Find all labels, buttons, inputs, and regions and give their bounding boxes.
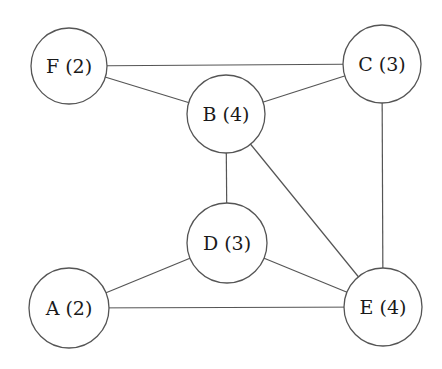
edge-a-e [69, 307, 383, 308]
node-label: F (2) [46, 55, 92, 77]
nodes-layer: F (2)C (3)B (4)D (3)A (2)E (4) [29, 25, 422, 348]
node-label: C (3) [358, 53, 406, 75]
node-b: B (4) [187, 75, 265, 153]
node-c: C (3) [343, 25, 421, 103]
graph-diagram: F (2)C (3)B (4)D (3)A (2)E (4) [0, 0, 442, 369]
node-e: E (4) [344, 268, 422, 346]
node-label: A (2) [45, 297, 93, 319]
node-d: D (3) [187, 203, 267, 283]
node-f: F (2) [31, 28, 107, 104]
node-label: E (4) [360, 296, 407, 318]
node-label: B (4) [203, 103, 250, 125]
node-label: D (3) [203, 232, 251, 254]
edge-f-c [69, 64, 382, 66]
node-a: A (2) [29, 268, 109, 348]
